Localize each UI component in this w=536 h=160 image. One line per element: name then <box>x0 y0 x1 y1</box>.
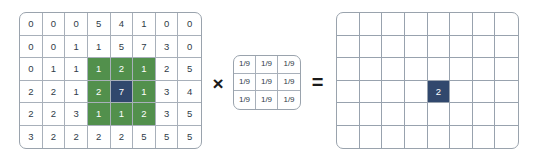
output-cell-r2-c1 <box>360 58 383 81</box>
output-cell-r4-c0 <box>337 103 360 126</box>
output-cell-r4-c4 <box>428 103 451 126</box>
output-cell-r0-c1 <box>360 13 383 36</box>
input-cell-r1-c6: 3 <box>156 36 179 59</box>
input-cell-r4-c3: 1 <box>88 103 111 126</box>
input-cell-r3-c2: 1 <box>65 81 88 104</box>
output-cell-r5-c1 <box>360 126 383 149</box>
input-cell-r0-c5: 1 <box>133 13 156 36</box>
equals-operator: = <box>305 72 330 92</box>
input-cell-r4-c7: 5 <box>178 103 201 126</box>
output-cell-r5-c2 <box>382 126 405 149</box>
input-cell-r5-c5: 5 <box>133 126 156 149</box>
output-image-matrix: 2 <box>336 12 519 149</box>
output-cell-r2-c0 <box>337 58 360 81</box>
input-cell-r2-c5: 1 <box>133 58 156 81</box>
output-cell-r2-c7 <box>495 58 518 81</box>
input-cell-r0-c2: 0 <box>65 13 88 36</box>
multiply-operator: × <box>207 73 229 93</box>
output-cell-r3-c2 <box>382 81 405 104</box>
input-cell-r4-c6: 3 <box>156 103 179 126</box>
output-cell-r0-c3 <box>405 13 428 36</box>
output-cell-r4-c5 <box>450 103 473 126</box>
input-cell-r1-c3: 1 <box>88 36 111 59</box>
output-cell-r2-c2 <box>382 58 405 81</box>
output-cell-r4-c3 <box>405 103 428 126</box>
input-cell-r5-c2: 2 <box>65 126 88 149</box>
output-cell-r2-c3 <box>405 58 428 81</box>
input-cell-r2-c2: 1 <box>65 58 88 81</box>
output-cell-r5-c6 <box>473 126 496 149</box>
kernel-cell-r0-c2: 1/9 <box>278 56 300 74</box>
input-cell-r1-c0: 0 <box>20 36 43 59</box>
kernel-cell-r1-c0: 1/9 <box>234 74 256 92</box>
input-cell-r0-c4: 4 <box>111 13 134 36</box>
output-cell-r3-c0 <box>337 81 360 104</box>
input-cell-r4-c2: 3 <box>65 103 88 126</box>
input-cell-r0-c7: 0 <box>178 13 201 36</box>
output-cell-r1-c4 <box>428 36 451 59</box>
kernel-cell-r1-c1: 1/9 <box>256 74 278 92</box>
kernel-matrix: 1/91/91/91/91/91/91/91/91/9 <box>233 55 301 110</box>
output-cell-r3-c5 <box>450 81 473 104</box>
output-cell-r4-c1 <box>360 103 383 126</box>
input-cell-r2-c4: 2 <box>111 58 134 81</box>
output-cell-r2-c5 <box>450 58 473 81</box>
output-cell-r5-c4 <box>428 126 451 149</box>
input-cell-r2-c3: 1 <box>88 58 111 81</box>
output-cell-r1-c1 <box>360 36 383 59</box>
input-cell-r3-c7: 4 <box>178 81 201 104</box>
output-cell-r1-c5 <box>450 36 473 59</box>
output-cell-r4-c2 <box>382 103 405 126</box>
output-cell-r0-c6 <box>473 13 496 36</box>
output-cell-r0-c2 <box>382 13 405 36</box>
input-cell-r2-c7: 5 <box>178 58 201 81</box>
input-cell-r3-c4: 7 <box>111 81 134 104</box>
input-cell-r5-c1: 2 <box>43 126 66 149</box>
output-cell-r0-c5 <box>450 13 473 36</box>
kernel-cell-r0-c0: 1/9 <box>234 56 256 74</box>
kernel-cell-r0-c1: 1/9 <box>256 56 278 74</box>
output-cell-r3-c1 <box>360 81 383 104</box>
output-cell-r3-c7 <box>495 81 518 104</box>
input-cell-r1-c4: 5 <box>111 36 134 59</box>
input-cell-r5-c7: 5 <box>178 126 201 149</box>
input-cell-r2-c1: 1 <box>43 58 66 81</box>
kernel-cell-r2-c1: 1/9 <box>256 91 278 109</box>
input-cell-r4-c1: 2 <box>43 103 66 126</box>
output-cell-r0-c0 <box>337 13 360 36</box>
output-cell-r2-c6 <box>473 58 496 81</box>
input-cell-r2-c0: 0 <box>20 58 43 81</box>
input-cell-r3-c1: 2 <box>43 81 66 104</box>
input-cell-r0-c3: 5 <box>88 13 111 36</box>
kernel-cell-r2-c2: 1/9 <box>278 91 300 109</box>
input-cell-r5-c3: 2 <box>88 126 111 149</box>
input-cell-r2-c6: 2 <box>156 58 179 81</box>
output-cell-r5-c0 <box>337 126 360 149</box>
input-cell-r1-c2: 1 <box>65 36 88 59</box>
kernel-cell-r1-c2: 1/9 <box>278 74 300 92</box>
output-cell-r0-c7 <box>495 13 518 36</box>
input-image-matrix: 0005410000115730011121252212713422311235… <box>19 12 202 149</box>
output-cell-r3-c6 <box>473 81 496 104</box>
output-cell-r1-c7 <box>495 36 518 59</box>
output-cell-r1-c3 <box>405 36 428 59</box>
convolution-figure: 0005410000115730011121252212713422311235… <box>0 0 536 160</box>
input-cell-r0-c1: 0 <box>43 13 66 36</box>
input-cell-r1-c1: 0 <box>43 36 66 59</box>
output-cell-r5-c3 <box>405 126 428 149</box>
input-cell-r5-c0: 3 <box>20 126 43 149</box>
output-cell-r1-c2 <box>382 36 405 59</box>
input-cell-r1-c7: 0 <box>178 36 201 59</box>
input-cell-r1-c5: 7 <box>133 36 156 59</box>
input-cell-r0-c0: 0 <box>20 13 43 36</box>
input-cell-r4-c4: 1 <box>111 103 134 126</box>
kernel-cell-r2-c0: 1/9 <box>234 91 256 109</box>
output-cell-r1-c0 <box>337 36 360 59</box>
output-cell-r4-c7 <box>495 103 518 126</box>
output-cell-r2-c4 <box>428 58 451 81</box>
input-cell-r3-c6: 3 <box>156 81 179 104</box>
output-cell-r4-c6 <box>473 103 496 126</box>
input-cell-r3-c5: 1 <box>133 81 156 104</box>
input-cell-r4-c5: 2 <box>133 103 156 126</box>
output-cell-r5-c7 <box>495 126 518 149</box>
